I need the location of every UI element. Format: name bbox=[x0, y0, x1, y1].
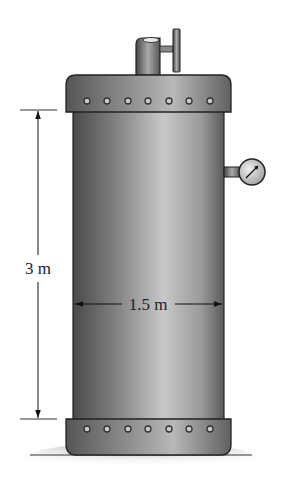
pipe bbox=[136, 38, 160, 75]
bolt-icon bbox=[104, 98, 110, 104]
pipe-opening bbox=[143, 38, 159, 43]
tank-body bbox=[73, 110, 224, 421]
height-label: 3 m bbox=[25, 259, 51, 278]
bolt-icon bbox=[104, 426, 110, 432]
top-cap-shape bbox=[66, 75, 231, 112]
diameter-label: 1.5 m bbox=[129, 295, 168, 314]
gauge-stem bbox=[224, 167, 240, 177]
bottom-cap-shape bbox=[66, 419, 231, 455]
bolt-icon bbox=[186, 426, 192, 432]
top-cap bbox=[66, 75, 231, 112]
bolt-icon bbox=[145, 98, 151, 104]
bolt-icon bbox=[186, 98, 192, 104]
bottom-cap bbox=[66, 419, 231, 455]
valve-assembly bbox=[136, 29, 180, 75]
bolt-icon bbox=[125, 426, 131, 432]
pressure-gauge-icon bbox=[224, 159, 265, 185]
bolt-icon bbox=[207, 426, 213, 432]
valve-handle-icon bbox=[173, 29, 180, 72]
bolt-icon bbox=[84, 426, 90, 432]
valve-stem bbox=[160, 46, 173, 52]
bolt-icon bbox=[145, 426, 151, 432]
bolt-icon bbox=[84, 98, 90, 104]
bolt-icon bbox=[125, 98, 131, 104]
bolt-icon bbox=[166, 98, 172, 104]
bolt-icon bbox=[207, 98, 213, 104]
height-dimension: 3 m bbox=[20, 110, 57, 419]
bolt-icon bbox=[166, 426, 172, 432]
pressure-tank-diagram: 3 m 1.5 m bbox=[0, 0, 281, 478]
